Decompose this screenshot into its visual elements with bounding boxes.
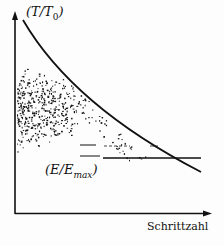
energy-label: (E/Emax) — [45, 162, 98, 180]
x-axis-label: Schrittzahl — [147, 220, 208, 233]
temperature-curve — [23, 20, 201, 172]
x-axis-arrow-icon — [203, 211, 212, 217]
y-axis-label: (T/T0) — [26, 4, 64, 22]
chart-figure: (T/T0) (E/Emax) Schrittzahl — [0, 0, 224, 246]
chart-canvas — [0, 0, 224, 246]
energy-scatter — [17, 69, 146, 161]
y-axis-arrow-icon — [12, 11, 18, 20]
